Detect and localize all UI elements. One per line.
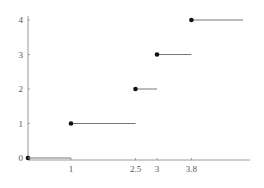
y-tick-label: 2 bbox=[19, 84, 24, 94]
y-tick-label: 4 bbox=[19, 15, 24, 25]
y-tick-label: 0 bbox=[19, 153, 24, 163]
step-function-chart: 12.533.8 01234 bbox=[0, 0, 264, 188]
x-tick-label: 1 bbox=[69, 164, 74, 174]
closed-endpoint-dot bbox=[155, 52, 160, 57]
closed-endpoint-dot bbox=[69, 121, 74, 126]
x-tick-label: 3 bbox=[155, 164, 160, 174]
y-tick-label: 1 bbox=[19, 119, 24, 129]
y-tick-label: 3 bbox=[19, 50, 24, 60]
axes bbox=[28, 16, 250, 160]
closed-endpoint-dot bbox=[133, 87, 138, 92]
x-tick-label: 2.5 bbox=[130, 164, 142, 174]
x-tick-label: 3.8 bbox=[186, 164, 198, 174]
closed-endpoint-dot bbox=[189, 18, 194, 23]
step-points bbox=[26, 18, 194, 161]
